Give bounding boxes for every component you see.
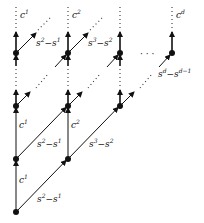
edge-s2s1-top	[16, 33, 36, 53]
edge-s3s2-mid	[68, 108, 118, 160]
label-c2-mid: c2	[71, 118, 80, 130]
label-s2s1-top: s2−s1	[36, 36, 60, 48]
label-c1-low: c1	[19, 173, 28, 185]
label-c2-top: c2	[72, 8, 81, 20]
node	[13, 209, 19, 215]
edge-into-topd-diag	[159, 55, 170, 67]
label-c1-mid: c1	[19, 118, 28, 130]
edge-s2s1-low	[16, 161, 66, 213]
label-c1-top: c1	[20, 8, 29, 20]
label-s3s2-mid: s3−s2	[89, 137, 114, 149]
diagonal-dots	[36, 18, 152, 88]
node	[13, 156, 19, 162]
label-s2s1-mid: s2−s1	[37, 137, 61, 149]
node	[169, 50, 175, 56]
node	[65, 103, 71, 109]
node	[13, 103, 19, 109]
labels: c1 c2 cd s2−s1 s3−s2 sd−sd−1 · · · c1 c2…	[19, 8, 191, 204]
tower-diagram: c1 c2 cd s2−s1 s3−s2 sd−sd−1 · · · c1 c2…	[0, 0, 204, 223]
edge-s3s2-top	[68, 33, 88, 53]
label-s3s2-top: s3−s2	[88, 36, 113, 48]
node	[13, 50, 19, 56]
edge-into-top2-diag	[55, 55, 66, 67]
label-sdsd1: sd−sd−1	[158, 67, 191, 79]
node	[117, 103, 123, 109]
node	[117, 50, 123, 56]
vertical-edges	[16, 32, 172, 212]
diagonal-edges	[16, 33, 170, 212]
diagram-svg: c1 c2 cd s2−s1 s3−s2 sd−sd−1 · · · c1 c2…	[0, 0, 204, 223]
label-s2s1-low: s2−s1	[37, 192, 61, 204]
node	[65, 156, 71, 162]
ellipsis: · · ·	[140, 49, 154, 59]
edge-into-top3-diag	[107, 55, 118, 67]
node	[65, 50, 71, 56]
label-cd-top: cd	[176, 8, 185, 20]
edge-s2s1-mid	[16, 108, 66, 160]
